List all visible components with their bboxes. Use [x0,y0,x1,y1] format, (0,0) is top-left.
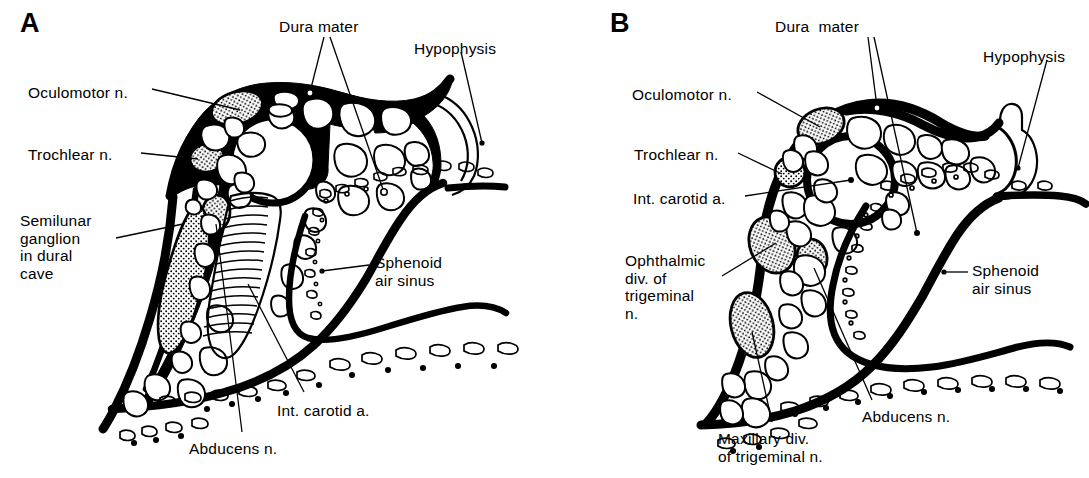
leader-oculomotor-b [757,92,820,127]
figure-root: A Dura mater Hypophysis Oculomotor n. Tr… [0,0,1089,478]
label-maxillary-division-b: Maxillary div. of trigeminal n. [718,430,823,465]
label-sphenoid-air-sinus-a: Sphenoid air sinus [375,254,442,289]
leader-hypophysis-a [461,52,482,143]
label-sphenoid-air-sinus-b: Sphenoid air sinus [972,262,1039,297]
label-dura-mater-b: Dura mater [775,18,859,36]
label-trochlear-n-b: Trochlear n. [634,146,719,164]
panel-letter-b: B [610,10,630,37]
label-oculomotor-n-b: Oculomotor n. [632,86,732,104]
label-oculomotor-n-a: Oculomotor n. [28,84,128,102]
label-dura-mater-a: Dura mater [279,18,359,36]
leader-abducens-b [814,268,872,400]
label-hypophysis-a: Hypophysis [414,40,496,58]
panel-letter-a: A [20,10,40,37]
anatomical-diagram-svg [0,0,1089,478]
label-trochlear-n-a: Trochlear n. [28,146,113,164]
label-int-carotid-a-b: Int. carotid a. [633,190,726,208]
hypophysis-wall-b [996,126,1016,194]
leader-sphenoid-a [322,265,369,271]
maxillary-division-b [724,288,781,362]
leader-trochlear-b [738,153,782,174]
sella-floor-band-b [997,195,1086,204]
label-hypophysis-b: Hypophysis [983,48,1065,66]
panel-a-drawing [103,37,518,445]
label-int-carotid-a-a: Int. carotid a. [277,402,370,420]
leader-dura-a-1 [310,37,324,92]
panel-b-drawing [701,37,1086,453]
label-ophthalmic-division-b: Ophthalmic div. of trigeminal n. [625,252,705,322]
label-semilunar-ganglion-a: Semilunar ganglion in dural cave [20,212,92,282]
label-abducens-n-a: Abducens n. [189,440,277,458]
sella-floor-band-a [448,186,505,188]
label-abducens-n-b: Abducens n. [862,408,950,426]
